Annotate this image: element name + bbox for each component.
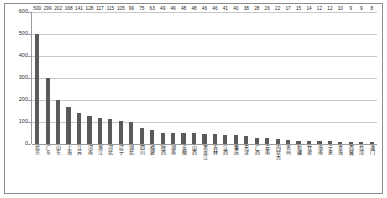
x-axis-tick-label: 海南 xyxy=(317,145,322,155)
bar[interactable]: 14 xyxy=(307,141,311,144)
bar-item[interactable]: 105 xyxy=(116,12,126,144)
x-axis-tick: 湖北 xyxy=(126,145,136,191)
x-axis-tick-label: 贵州 xyxy=(286,145,291,155)
bar[interactable]: 12 xyxy=(328,141,332,144)
bar[interactable]: 46 xyxy=(213,134,217,144)
bar-item[interactable]: 500 xyxy=(32,12,42,144)
bar[interactable]: 48 xyxy=(181,133,185,144)
bar-value-label: 46 xyxy=(212,7,217,12)
x-axis-tick-label: 湖北 xyxy=(129,145,134,155)
bar[interactable]: 115 xyxy=(108,119,112,144)
x-axis-tick: 黑龙江 xyxy=(199,145,209,191)
bar[interactable]: 75 xyxy=(140,128,144,145)
bar-value-label: 299 xyxy=(44,7,52,12)
x-axis-tick-label: 辽宁 xyxy=(118,145,123,155)
bar-value-label: 115 xyxy=(107,7,114,12)
bar-item[interactable]: 17 xyxy=(283,12,293,144)
bar[interactable]: 128 xyxy=(87,116,91,144)
x-axis-tick-label: 台湾 xyxy=(359,145,364,155)
bar[interactable]: 49 xyxy=(171,133,175,144)
bar[interactable]: 49 xyxy=(161,133,165,144)
bar[interactable]: 46 xyxy=(202,134,206,144)
bar-item[interactable]: 63 xyxy=(147,12,157,144)
bar-value-label: 48 xyxy=(181,7,186,12)
x-axis-tick-label: 甘肃 xyxy=(306,145,311,155)
bar[interactable]: 40 xyxy=(234,135,238,144)
bar-item[interactable]: 9 xyxy=(356,12,366,144)
bar[interactable]: 105 xyxy=(119,121,123,144)
x-axis-tick: 江西 xyxy=(220,145,230,191)
bar-item[interactable]: 26 xyxy=(262,12,272,144)
y-axis-tick-mark xyxy=(28,34,31,35)
bar[interactable]: 15 xyxy=(296,141,300,144)
x-axis-tick: 内蒙古 xyxy=(272,145,282,191)
bar[interactable]: 10 xyxy=(338,142,342,144)
bar[interactable]: 99 xyxy=(129,122,133,144)
bar-item[interactable]: 12 xyxy=(314,12,324,144)
bar-item[interactable]: 10 xyxy=(335,12,345,144)
bar[interactable]: 48 xyxy=(192,133,196,144)
bar[interactable]: 117 xyxy=(98,118,102,144)
bar-item[interactable]: 115 xyxy=(105,12,115,144)
x-axis-tick-label: 北京 xyxy=(35,145,40,155)
x-axis-tick-label: 新疆 xyxy=(296,145,301,155)
bar[interactable]: 12 xyxy=(317,141,321,144)
bar-item[interactable]: 38 xyxy=(241,12,251,144)
bar[interactable]: 299 xyxy=(46,78,50,144)
bar-item[interactable]: 8 xyxy=(367,12,377,144)
x-axis-tick-label: 湖南 xyxy=(171,145,176,155)
bar-value-label: 168 xyxy=(65,7,73,12)
bar[interactable]: 17 xyxy=(286,140,290,144)
bar[interactable]: 141 xyxy=(77,113,81,144)
bar-item[interactable]: 202 xyxy=(53,12,63,144)
bar-item[interactable]: 28 xyxy=(252,12,262,144)
bar-item[interactable]: 75 xyxy=(137,12,147,144)
bar[interactable]: 22 xyxy=(276,139,280,144)
x-axis-tick: 陕西 xyxy=(157,145,167,191)
bar-item[interactable]: 48 xyxy=(178,12,188,144)
bar-value-label: 15 xyxy=(296,7,301,12)
x-axis-tick: 重庆 xyxy=(231,145,241,191)
bar[interactable]: 9 xyxy=(359,142,363,144)
bar-item[interactable]: 128 xyxy=(84,12,94,144)
x-axis-tick-label: 河北 xyxy=(108,145,113,155)
y-axis-tick-mark xyxy=(28,78,31,79)
bar-item[interactable]: 14 xyxy=(304,12,314,144)
bar-item[interactable]: 46 xyxy=(199,12,209,144)
bar-value-label: 8 xyxy=(370,7,373,12)
x-axis-tick-label: 西藏 xyxy=(348,145,353,155)
bar-value-label: 105 xyxy=(117,7,125,12)
bar-item[interactable]: 46 xyxy=(210,12,220,144)
bar-item[interactable]: 299 xyxy=(42,12,52,144)
bar-item[interactable]: 12 xyxy=(325,12,335,144)
bar[interactable]: 9 xyxy=(349,142,353,144)
x-axis-tick-label: 河南 xyxy=(87,145,92,155)
bar-value-label: 49 xyxy=(160,7,165,12)
bar-item[interactable]: 141 xyxy=(74,12,84,144)
bar[interactable]: 38 xyxy=(244,136,248,144)
x-axis-tick-label: 澳门 xyxy=(369,145,374,155)
bar-item[interactable]: 49 xyxy=(168,12,178,144)
y-axis-tick-label: 200 xyxy=(19,97,28,102)
bar-item[interactable]: 49 xyxy=(157,12,167,144)
x-axis-tick: 广西 xyxy=(252,145,262,191)
bar-item[interactable]: 117 xyxy=(95,12,105,144)
bar-item[interactable]: 9 xyxy=(346,12,356,144)
bar-item[interactable]: 99 xyxy=(126,12,136,144)
bar[interactable]: 26 xyxy=(265,138,269,144)
bar-item[interactable]: 22 xyxy=(272,12,282,144)
bar[interactable]: 8 xyxy=(370,142,374,144)
x-axis-tick: 海南 xyxy=(314,145,324,191)
bar[interactable]: 63 xyxy=(150,130,154,144)
bar-item[interactable]: 48 xyxy=(189,12,199,144)
bar-item[interactable]: 15 xyxy=(293,12,303,144)
bar-item[interactable]: 168 xyxy=(63,12,73,144)
bar-item[interactable]: 41 xyxy=(220,12,230,144)
bar-item[interactable]: 40 xyxy=(231,12,241,144)
bar[interactable]: 202 xyxy=(56,100,60,144)
bar[interactable]: 168 xyxy=(66,107,70,144)
x-axis-tick: 吉林 xyxy=(210,145,220,191)
bar[interactable]: 41 xyxy=(223,135,227,144)
bar[interactable]: 500 xyxy=(35,34,39,144)
bar[interactable]: 28 xyxy=(255,138,259,144)
